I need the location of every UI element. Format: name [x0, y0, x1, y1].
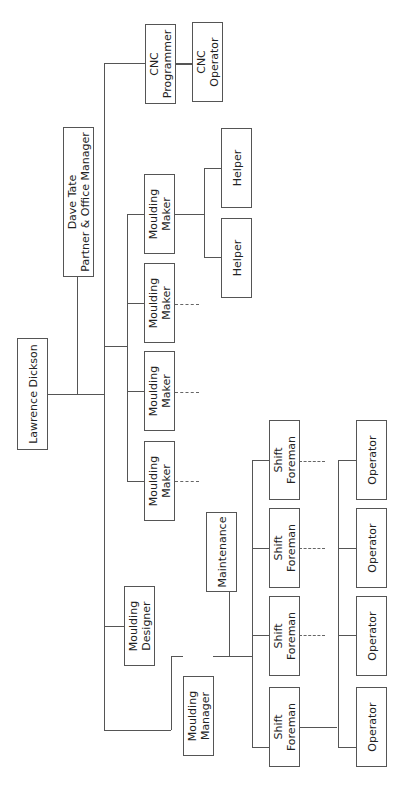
- node-shift-foreman: Shift Foreman: [269, 596, 300, 676]
- node-helper: Helper: [221, 218, 252, 298]
- node-lawrence-dickson: Lawrence Dickson: [17, 338, 48, 450]
- connector: [338, 460, 356, 461]
- connector: [104, 626, 124, 627]
- connector: [252, 548, 269, 549]
- node-operator: Operator: [356, 687, 387, 767]
- node-label: Helper: [230, 150, 243, 186]
- node-label: Shift Foreman: [272, 703, 298, 751]
- connector: [204, 168, 221, 169]
- connector: [299, 727, 337, 728]
- dashed-connector: [175, 481, 199, 482]
- node-cnc-programmer: CNC Programmer: [145, 24, 176, 104]
- dashed-connector: [299, 635, 325, 636]
- connector: [252, 460, 269, 461]
- node-shift-foreman: Shift Foreman: [269, 420, 300, 500]
- dashed-connector: [175, 392, 199, 393]
- node-moulding-maker: Moulding Maker: [144, 263, 175, 343]
- node-label: Moulding Designer: [127, 601, 153, 651]
- connector: [127, 214, 144, 215]
- connector: [204, 257, 221, 258]
- connector: [127, 391, 144, 392]
- node-dave-tate: Dave Tate Partner & Office Manager: [63, 127, 94, 277]
- connector: [175, 63, 192, 65]
- dashed-connector: [299, 461, 325, 462]
- node-moulding-manager: Moulding Manager: [183, 676, 214, 756]
- node-label: Moulding Maker: [147, 278, 173, 328]
- connector: [171, 656, 183, 657]
- node-label: Moulding Maker: [147, 189, 173, 239]
- node-operator: Operator: [356, 508, 387, 588]
- node-moulding-designer: Moulding Designer: [124, 586, 155, 666]
- node-helper: Helper: [221, 128, 252, 208]
- node-label: Moulding Maker: [147, 456, 173, 506]
- connector: [127, 481, 144, 482]
- node-label: CNC Programmer: [148, 30, 174, 98]
- connector: [77, 276, 78, 394]
- node-moulding-maker: Moulding Maker: [144, 441, 175, 521]
- node-label: Operator: [365, 523, 378, 572]
- node-label: Moulding Manager: [186, 691, 212, 741]
- connector: [213, 656, 252, 657]
- node-label: Lawrence Dickson: [26, 344, 39, 444]
- node-label: Operator: [365, 435, 378, 484]
- connector: [104, 730, 171, 731]
- connector: [175, 214, 204, 215]
- node-label: Dave Tate Partner & Office Manager: [66, 132, 92, 271]
- connector: [47, 394, 104, 395]
- node-operator: Operator: [356, 596, 387, 676]
- node-label: Operator: [365, 611, 378, 660]
- connector: [171, 656, 172, 730]
- connector: [338, 548, 356, 549]
- connector: [104, 63, 145, 64]
- node-shift-foreman: Shift Foreman: [269, 687, 300, 767]
- connector: [252, 460, 253, 747]
- node-moulding-maker: Moulding Maker: [144, 174, 175, 254]
- node-cnc-operator: CNC Operator: [192, 22, 223, 102]
- node-moulding-maker: Moulding Maker: [144, 351, 175, 431]
- connector: [338, 635, 356, 636]
- connector: [104, 346, 127, 347]
- node-maintenance: Maintenance: [206, 512, 237, 592]
- node-label: Moulding Maker: [147, 366, 173, 416]
- connector: [338, 747, 356, 748]
- connector: [252, 635, 269, 636]
- connector: [252, 747, 269, 748]
- connector: [104, 63, 105, 730]
- connector: [229, 591, 230, 656]
- dashed-connector: [175, 304, 199, 305]
- node-label: Shift Foreman: [272, 612, 298, 660]
- node-shift-foreman: Shift Foreman: [269, 508, 300, 588]
- node-label: Shift Foreman: [272, 436, 298, 484]
- org-chart: Lawrence Dickson Dave Tate Partner & Off…: [0, 0, 408, 788]
- dashed-connector: [299, 548, 325, 549]
- node-label: Operator: [365, 702, 378, 751]
- node-label: Maintenance: [215, 517, 228, 588]
- connector: [204, 168, 205, 258]
- node-label: CNC Operator: [195, 37, 221, 86]
- node-label: Shift Foreman: [272, 524, 298, 572]
- connector: [127, 214, 128, 482]
- connector: [338, 460, 339, 748]
- connector: [127, 303, 144, 304]
- node-operator: Operator: [356, 420, 387, 500]
- node-label: Helper: [230, 240, 243, 276]
